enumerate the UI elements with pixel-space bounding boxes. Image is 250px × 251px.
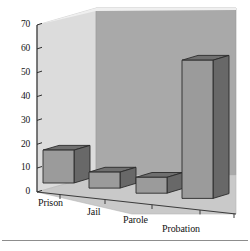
bottom-divider — [2, 240, 248, 241]
category-label-parole: Parole — [123, 215, 148, 225]
bar-parole — [136, 173, 183, 194]
y-tick-label-60: 60 — [8, 44, 30, 54]
bar-probation — [182, 55, 229, 198]
y-tick-label-50: 50 — [8, 68, 30, 78]
y-tick-label-40: 40 — [8, 92, 30, 102]
category-label-prison: Prison — [38, 198, 63, 208]
y-tick-label-0: 0 — [8, 187, 30, 197]
bar-prison — [43, 145, 90, 183]
y-tick-label-10: 10 — [8, 163, 30, 173]
y-tick-label-70: 70 — [8, 20, 30, 30]
category-label-jail: Jail — [87, 207, 101, 217]
bar-chart-figure: 70 60 50 40 30 20 10 0 Prison Jail Parol… — [0, 0, 250, 251]
y-tick-label-30: 30 — [8, 116, 30, 126]
category-label-probation: Probation — [162, 224, 200, 234]
y-tick-label-20: 20 — [8, 140, 30, 150]
bar-jail — [89, 167, 136, 188]
